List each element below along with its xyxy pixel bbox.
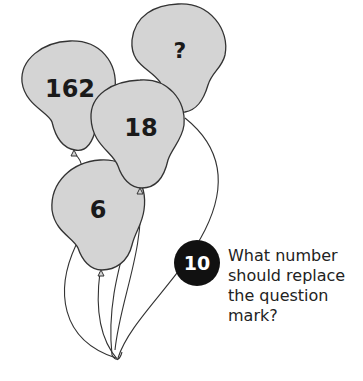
- question-text: What number should replace the question …: [228, 246, 363, 326]
- question-line: What number: [228, 246, 363, 266]
- balloon-label-unknown: ?: [174, 38, 187, 63]
- balloon-label-top-left: 162: [45, 75, 95, 103]
- question-line: mark?: [228, 306, 363, 326]
- question-line: should replace: [228, 266, 363, 286]
- balloon-label-bottom: 6: [90, 196, 107, 224]
- balloon-label-middle: 18: [124, 114, 157, 142]
- question-line: the question: [228, 286, 363, 306]
- puzzle-number-badge: 10: [174, 240, 220, 286]
